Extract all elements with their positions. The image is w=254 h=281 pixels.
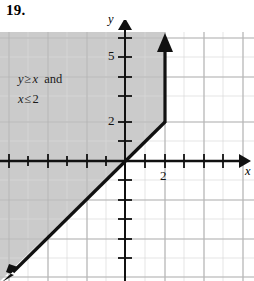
graph-svg [0, 20, 254, 281]
inequality-conjunction: and [44, 72, 62, 86]
inequality-2-rhs: 2 [32, 92, 38, 106]
coordinate-plane-figure [0, 20, 254, 281]
inequality-1-rhs: x [32, 72, 38, 86]
inequality-line-2: x≤2 [18, 93, 39, 106]
inequality-2-lhs: x [18, 92, 24, 106]
inequality-line-1: y≥x and [18, 73, 62, 86]
y-tick-label-2: 2 [108, 113, 115, 129]
problem-number: 19. [6, 2, 25, 19]
x-tick-label-2: 2 [160, 168, 167, 184]
y-axis-label: y [108, 12, 114, 27]
x-axis-label: x [245, 164, 251, 179]
y-tick-label-5: 5 [108, 48, 115, 64]
worksheet-figure-page: 19. [0, 0, 254, 281]
y-axis-arrow [118, 20, 132, 30]
inequality-1-lhs: y [18, 72, 24, 86]
